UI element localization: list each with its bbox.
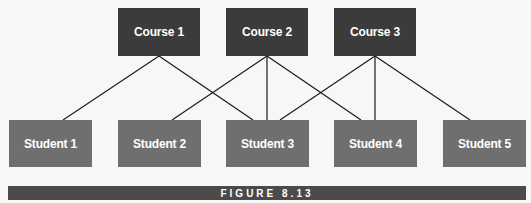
student-node-2: Student 2 — [118, 120, 201, 167]
course-label: Course 3 — [350, 25, 400, 39]
student-label: Student 2 — [133, 137, 186, 151]
course-label: Course 1 — [134, 25, 184, 39]
student-node-5: Student 5 — [443, 120, 526, 167]
course-label: Course 2 — [242, 25, 292, 39]
course-node-3: Course 3 — [334, 8, 416, 56]
edge-course2-student2 — [172, 56, 267, 120]
student-node-4: Student 4 — [334, 120, 417, 167]
edge-course3-student5 — [375, 56, 470, 120]
course-node-1: Course 1 — [118, 8, 200, 56]
student-label: Student 4 — [349, 137, 402, 151]
student-label: Student 3 — [241, 137, 294, 151]
diagram-canvas: Course 1 Course 2 Course 3 Student 1 Stu… — [0, 0, 531, 203]
edge-course1-student1 — [63, 56, 159, 120]
figure-caption: FIGURE 8.13 — [220, 188, 313, 199]
student-label: Student 1 — [24, 137, 77, 151]
figure-caption-bar: FIGURE 8.13 — [8, 186, 526, 200]
edge-course2-student4 — [267, 56, 361, 120]
course-node-2: Course 2 — [226, 8, 308, 56]
edge-course1-student3 — [159, 56, 253, 120]
edge-course3-student3 — [280, 56, 375, 120]
student-label: Student 5 — [458, 137, 511, 151]
student-node-1: Student 1 — [9, 120, 92, 167]
student-node-3: Student 3 — [226, 120, 309, 167]
